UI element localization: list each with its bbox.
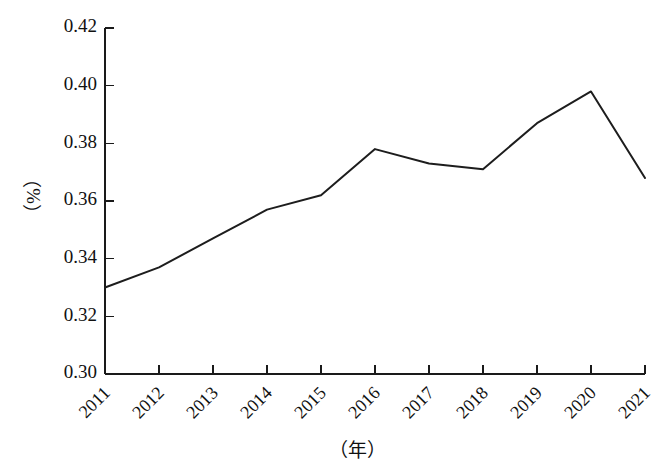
y-tick-label: 0.32 <box>64 304 97 325</box>
y-tick-label: 0.40 <box>64 73 97 94</box>
y-tick-label: 0.34 <box>64 246 98 267</box>
line-chart: 0.300.320.340.360.380.400.42 20112012201… <box>0 0 670 475</box>
chart-canvas: 0.300.320.340.360.380.400.42 20112012201… <box>0 0 670 475</box>
y-tick-label: 0.38 <box>64 131 97 152</box>
y-tick-label: 0.42 <box>64 15 97 36</box>
y-tick-label: 0.30 <box>64 361 97 382</box>
x-axis-title: （年） <box>329 440 386 461</box>
y-axis-title: （%） <box>23 169 44 223</box>
y-tick-label: 0.36 <box>64 188 97 209</box>
